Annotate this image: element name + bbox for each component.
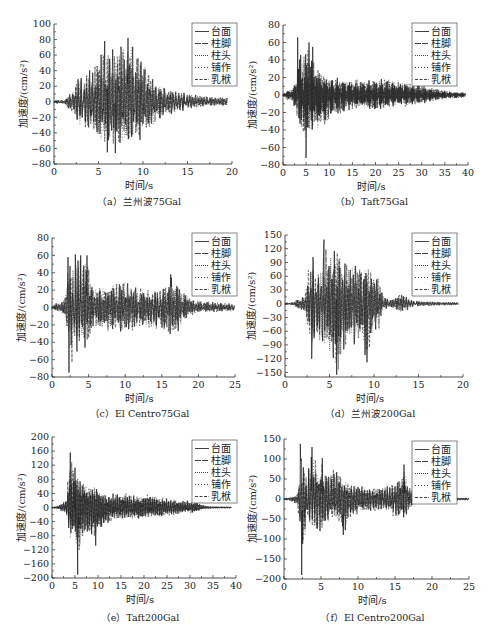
y-tick-label: −40 [29, 516, 49, 527]
legend-label: 铺作 [211, 478, 231, 490]
legend-label: 柱头 [211, 49, 231, 61]
y-tick-label: −60 [31, 143, 51, 154]
x-axis-label: 时间/s [125, 179, 154, 191]
legend-label: 柱脚 [431, 37, 451, 49]
y-tick-label: −80 [31, 158, 51, 169]
x-tick-label: 10 [137, 166, 149, 177]
legend-label: 铺作 [211, 61, 231, 73]
x-tick-label: 15 [181, 166, 193, 177]
y-tick-label: 200 [31, 431, 49, 442]
y-tick-label: 60 [37, 250, 49, 261]
y-tick-label: 0 [276, 298, 282, 309]
x-tick-label: 5 [95, 166, 101, 177]
y-tick-label: 0 [45, 96, 51, 107]
legend-label: 柱脚 [211, 247, 231, 259]
y-tick-label: −150 [256, 367, 282, 378]
x-tick-label: 0 [280, 167, 286, 178]
x-tick-label: 25 [161, 580, 173, 591]
legend-label: 柱头 [431, 49, 451, 61]
y-tick-label: 60 [268, 37, 280, 48]
x-axis-label: 时间/s [356, 392, 385, 404]
y-tick-label: −150 [255, 553, 281, 564]
y-tick-label: −40 [29, 336, 49, 347]
legend: 台面柱脚柱头铺作乳栿 [192, 23, 237, 86]
y-tick-label: −200 [255, 573, 281, 584]
y-tick-label: 50 [269, 473, 281, 484]
x-tick-label: 10 [92, 580, 104, 591]
y-tick-label: −200 [23, 572, 49, 583]
y-tick-label: 100 [263, 453, 281, 464]
y-tick-label: −80 [260, 159, 280, 170]
legend: 台面柱脚柱头铺作乳栿 [412, 233, 457, 296]
panel-caption: （b）Taft75Gal [335, 196, 408, 207]
y-tick-label: 90 [270, 257, 282, 268]
legend-label: 乳栿 [211, 283, 231, 295]
x-tick-label: 5 [86, 379, 92, 390]
y-tick-label: −40 [31, 127, 51, 138]
x-axis-label: 时间/s [358, 594, 387, 606]
y-tick-label: −30 [262, 312, 282, 323]
legend: 台面柱脚柱头铺作乳栿 [412, 23, 457, 86]
y-axis-label: 加速度/(cm/s²) [246, 61, 258, 130]
legend-label: 柱头 [211, 259, 231, 271]
panel-caption: （c）El Centro75Gal [90, 408, 190, 419]
x-tick-label: 25 [393, 167, 405, 178]
legend-label: 台面 [431, 443, 451, 455]
legend-label: 乳栿 [211, 73, 231, 85]
y-tick-label: −50 [261, 513, 281, 524]
legend-label: 台面 [211, 25, 231, 37]
x-tick-label: 5 [303, 167, 309, 178]
y-tick-label: −40 [260, 124, 280, 135]
y-tick-label: 0 [43, 502, 49, 513]
y-tick-label: 150 [264, 229, 282, 240]
legend: 台面柱脚柱头铺作乳栿 [412, 441, 457, 504]
x-tick-label: 30 [416, 167, 428, 178]
x-tick-label: 10 [352, 581, 364, 592]
legend-label: 柱脚 [431, 455, 451, 467]
legend: 台面柱脚柱头铺作乳栿 [192, 233, 237, 296]
y-tick-label: 80 [37, 474, 49, 485]
y-axis-label: 加速度/(cm/s²) [246, 475, 258, 544]
x-axis-label: 时间/s [126, 593, 155, 605]
panel-c-elcentro-75gal: −80−60−40−200204060800510152025时间/s加速度/(… [15, 232, 241, 419]
legend-label: 台面 [211, 235, 231, 247]
y-tick-label: 0 [275, 493, 281, 504]
y-tick-label: −20 [260, 107, 280, 118]
legend-label: 乳栿 [431, 283, 451, 295]
y-tick-label: 40 [268, 54, 280, 65]
x-tick-label: 15 [389, 581, 401, 592]
x-tick-label: 10 [119, 379, 131, 390]
y-tick-label: 20 [39, 80, 51, 91]
y-tick-label: −80 [29, 530, 49, 541]
y-tick-label: 120 [264, 243, 282, 254]
legend-label: 铺作 [211, 271, 231, 283]
panel-caption: （a）兰州波75Gal [97, 196, 181, 207]
x-tick-label: 15 [346, 167, 358, 178]
x-tick-label: 20 [457, 379, 469, 390]
legend-label: 乳栿 [211, 490, 231, 502]
legend-label: 柱脚 [211, 454, 231, 466]
y-tick-label: 20 [37, 284, 49, 295]
x-tick-label: 20 [192, 379, 204, 390]
legend: 台面柱脚柱头铺作乳栿 [192, 440, 237, 503]
y-axis-label: 加速度/(cm/s²) [245, 272, 257, 341]
figure-canvas: −80−60−40−2002040608010005101520时间/s加速度/… [0, 0, 490, 639]
y-tick-label: 80 [37, 232, 49, 243]
x-tick-label: 15 [412, 379, 424, 390]
panel-d-lanzhou-200gal: −150−120−90−60−30030609012015005101520时间… [245, 229, 469, 419]
x-tick-label: 40 [230, 580, 242, 591]
x-tick-label: 40 [462, 167, 474, 178]
y-tick-label: 40 [37, 488, 49, 499]
y-tick-label: −60 [29, 354, 49, 365]
y-tick-label: −100 [255, 533, 281, 544]
y-tick-label: 60 [270, 270, 282, 281]
y-axis-label: 加速度/(cm/s²) [15, 473, 27, 542]
y-tick-label: 40 [37, 267, 49, 278]
y-axis-label: 加速度/(cm/s²) [17, 60, 29, 129]
legend-label: 柱脚 [431, 247, 451, 259]
x-tick-label: 10 [368, 379, 380, 390]
x-tick-label: 10 [323, 167, 335, 178]
x-tick-label: 5 [326, 379, 332, 390]
y-tick-label: 0 [274, 89, 280, 100]
x-axis-label: 时间/s [125, 392, 154, 404]
